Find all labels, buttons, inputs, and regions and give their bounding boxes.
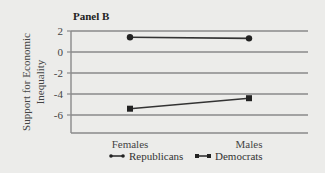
series-line-republicans xyxy=(130,37,249,38)
legend-label-democrats: Democrats xyxy=(215,150,263,162)
y-tick-label: -6 xyxy=(54,109,64,121)
axis-frame xyxy=(71,31,308,133)
y-axis-label-line2: Inequality xyxy=(34,59,46,104)
y-tick-label: 2 xyxy=(58,25,64,37)
legend-marker xyxy=(195,154,199,158)
x-category-label: Females xyxy=(112,138,149,150)
x-axis-categories: FemalesMales xyxy=(112,138,263,150)
gridlines xyxy=(71,31,308,115)
legend-marker xyxy=(207,154,211,158)
chart-title: Panel B xyxy=(73,10,110,22)
legend-marker xyxy=(121,154,125,158)
legend-marker xyxy=(109,154,113,158)
data-point-democrats xyxy=(127,106,133,112)
data-point-republicans xyxy=(127,34,133,40)
data-point-republicans xyxy=(246,35,252,41)
x-category-label: Males xyxy=(236,138,263,150)
y-tick-label: -4 xyxy=(54,88,64,100)
y-tick-label: -2 xyxy=(54,67,63,79)
chart: Panel B Support for Economic Inequality … xyxy=(0,0,325,173)
legend-label-republicans: Republicans xyxy=(129,150,183,162)
y-axis-label-line1: Support for Economic xyxy=(20,33,32,131)
series-line-democrats xyxy=(130,98,249,109)
data-point-democrats xyxy=(246,95,252,101)
y-tick-label: 0 xyxy=(58,46,64,58)
legend: RepublicansDemocrats xyxy=(109,150,262,162)
y-axis-ticks: 20-2-4-6 xyxy=(54,25,71,121)
